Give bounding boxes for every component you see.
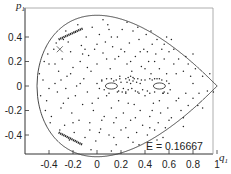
data-point xyxy=(123,112,125,114)
data-point xyxy=(202,75,204,77)
data-point xyxy=(60,107,62,109)
data-point xyxy=(175,73,177,75)
data-point xyxy=(149,116,151,118)
data-point xyxy=(126,63,128,65)
data-point xyxy=(69,139,71,141)
y-tick-label: -0.2 xyxy=(5,105,23,116)
data-point xyxy=(114,58,116,60)
data-point xyxy=(137,91,139,93)
data-point xyxy=(142,89,144,91)
data-point xyxy=(156,78,158,80)
data-point xyxy=(151,110,153,112)
data-point xyxy=(125,127,127,129)
data-point xyxy=(118,100,120,102)
data-point xyxy=(185,93,187,95)
data-point xyxy=(67,98,69,100)
data-point xyxy=(127,77,129,79)
data-point xyxy=(169,89,171,91)
data-point xyxy=(137,26,139,28)
data-point xyxy=(132,30,134,32)
data-point xyxy=(113,137,115,139)
data-point xyxy=(118,56,120,58)
data-point xyxy=(209,73,211,75)
data-point xyxy=(163,44,165,46)
data-point xyxy=(168,51,170,53)
data-point xyxy=(111,107,113,109)
energy-annotation: E = 0.16667 xyxy=(146,140,203,152)
y-tick-label: 0 xyxy=(16,81,22,92)
data-point xyxy=(96,63,98,65)
data-point xyxy=(168,120,170,122)
data-point xyxy=(147,134,149,136)
data-point xyxy=(166,80,168,82)
data-point xyxy=(115,117,117,119)
data-point xyxy=(136,132,138,134)
data-point xyxy=(138,39,140,41)
data-point xyxy=(166,36,168,38)
data-point xyxy=(73,132,75,134)
data-point xyxy=(142,124,144,126)
data-point xyxy=(84,49,86,51)
data-point xyxy=(147,51,149,53)
data-point xyxy=(173,63,175,65)
data-point xyxy=(48,88,50,90)
x-tick-label: 0 xyxy=(94,159,100,170)
data-point xyxy=(119,75,121,77)
data-point xyxy=(81,45,83,47)
data-point xyxy=(43,61,45,63)
data-point xyxy=(40,95,42,97)
data-point xyxy=(192,53,194,55)
data-point xyxy=(133,104,135,106)
data-point xyxy=(91,26,93,28)
data-point xyxy=(151,44,153,46)
data-point xyxy=(101,120,103,122)
data-point xyxy=(64,124,66,126)
data-point xyxy=(183,126,185,128)
data-point xyxy=(138,93,140,95)
data-point xyxy=(141,66,143,68)
data-point xyxy=(70,51,72,53)
data-point xyxy=(115,144,117,146)
data-point xyxy=(79,61,81,63)
data-point xyxy=(197,105,199,107)
data-point xyxy=(129,79,131,81)
x-axis-ticks: -0.4-0.200.20.40.60.81 xyxy=(40,150,220,170)
data-point xyxy=(192,98,194,100)
data-point xyxy=(180,110,182,112)
data-point xyxy=(178,98,180,100)
data-point xyxy=(161,79,163,81)
right-center-ellipse xyxy=(153,83,165,89)
data-point xyxy=(154,61,156,63)
data-point xyxy=(67,41,69,43)
upper-left-island xyxy=(59,28,83,39)
data-point xyxy=(47,53,49,55)
y-tick-label: 0.2 xyxy=(8,56,22,67)
data-point xyxy=(207,90,209,92)
data-point xyxy=(82,104,84,106)
data-point xyxy=(102,19,104,21)
data-point xyxy=(39,73,41,75)
data-point xyxy=(145,34,147,36)
data-point xyxy=(58,71,60,73)
data-point xyxy=(111,78,113,80)
data-point xyxy=(76,85,78,87)
data-point xyxy=(132,77,134,79)
data-point xyxy=(102,52,104,54)
data-point xyxy=(87,91,89,93)
small-cross-island xyxy=(57,46,63,52)
data-point xyxy=(127,102,129,104)
island-chains xyxy=(57,28,166,144)
data-point xyxy=(118,90,120,92)
data-point xyxy=(75,31,77,33)
data-point xyxy=(187,105,189,107)
data-point xyxy=(106,58,108,60)
data-point xyxy=(78,120,80,122)
data-point xyxy=(91,102,93,104)
data-point xyxy=(130,83,132,85)
data-point xyxy=(138,144,140,146)
data-point xyxy=(99,34,101,36)
data-point xyxy=(55,42,57,44)
scatter-points xyxy=(39,19,215,152)
data-point xyxy=(147,90,149,92)
data-point xyxy=(192,83,194,85)
